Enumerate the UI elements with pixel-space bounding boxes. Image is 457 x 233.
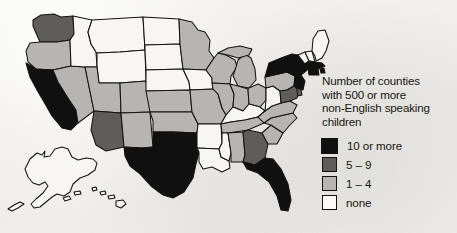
state-hawaii-big-island: [116, 200, 126, 208]
legend-row-5-9: 5 – 9: [320, 155, 457, 174]
legend-row-none: none: [320, 193, 457, 212]
legend-title: Number of counties with 500 or more non-…: [322, 74, 457, 128]
state-rhode-island: [320, 68, 325, 73]
state-south-dakota: [145, 44, 183, 70]
state-ohio: [248, 84, 266, 107]
legend-row-1-4: 1 – 4: [320, 174, 457, 193]
figure-container: people living in the US in 1990 did not …: [0, 0, 457, 233]
legend-title-line-4: children: [322, 115, 457, 129]
state-kansas: [146, 90, 192, 112]
state-michigan: [233, 54, 256, 88]
legend-label-10-or-more: 10 or more: [347, 139, 402, 152]
state-new-mexico: [121, 112, 153, 148]
alaska-aleutian-islands: [8, 202, 24, 211]
legend-label-none: none: [346, 196, 371, 209]
state-arkansas: [197, 124, 222, 149]
legend-label-5-9: 5 – 9: [346, 158, 371, 171]
state-arizona: [91, 111, 124, 151]
state-minnesota: [179, 19, 214, 70]
state-maine: [312, 30, 329, 61]
clipped-caption-text: people living in the US in 1990 did not …: [0, 0, 457, 1]
state-massachusetts: [305, 61, 325, 69]
state-hawaii-maui: [108, 195, 115, 199]
state-montana: [88, 17, 145, 53]
legend-swatch-light-gray: [322, 176, 337, 191]
legend-swatch-black: [321, 138, 338, 154]
legend-items: 10 or more 5 – 9 1 – 4 none: [320, 136, 457, 212]
state-oregon: [26, 40, 71, 70]
state-oklahoma: [150, 112, 198, 133]
map-legend: Number of counties with 500 or more non-…: [320, 74, 457, 212]
legend-title-line-3: non-English speaking: [322, 101, 457, 115]
state-florida: [243, 158, 291, 211]
map-svg: [0, 6, 330, 233]
legend-title-line-2: with 500 or more: [322, 88, 457, 102]
state-wyoming: [97, 50, 146, 83]
state-connecticut: [308, 69, 319, 75]
legend-title-line-1: Number of counties: [322, 74, 457, 88]
state-hawaii-oahu: [100, 191, 106, 195]
legend-label-1-4: 1 – 4: [346, 177, 371, 190]
state-alaska: [25, 147, 97, 208]
state-washington: [33, 14, 74, 42]
legend-swatch-white: [322, 195, 337, 210]
alaska-island-a: [63, 196, 71, 201]
state-alabama: [228, 132, 245, 162]
state-nebraska: [146, 69, 190, 91]
legend-row-10-or-more: 10 or more: [320, 136, 457, 155]
state-hawaii-kauai: [92, 187, 97, 191]
us-choropleth-map: [0, 6, 330, 233]
legend-swatch-dark-gray: [322, 157, 337, 172]
alaska-island-b: [74, 191, 81, 195]
